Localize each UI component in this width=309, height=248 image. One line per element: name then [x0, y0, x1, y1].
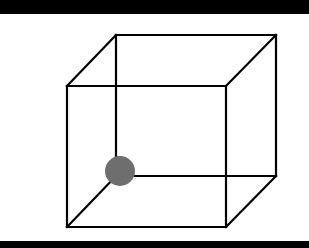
- cube-edges: [67, 35, 276, 227]
- cube-diagram: [0, 0, 309, 248]
- bottom-black-band: [0, 241, 309, 248]
- connector-bottom-left: [67, 176, 116, 227]
- connector-top-left: [67, 35, 116, 86]
- connector-bottom-right: [226, 176, 276, 227]
- vertex-dot: [105, 156, 135, 186]
- connector-top-right: [226, 35, 276, 86]
